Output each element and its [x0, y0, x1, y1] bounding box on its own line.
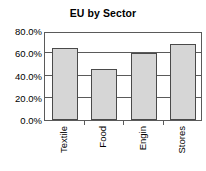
chart-container: EU by Sector 0.0%20.0%40.0%60.0%80.0% Te…	[0, 0, 206, 171]
bar-series	[45, 33, 201, 120]
x-axis-label-slot: Textile	[44, 126, 84, 171]
bar-stores	[170, 44, 196, 120]
x-axis-tick-label: Textile	[59, 126, 69, 153]
x-axis-tick-label: Stores	[177, 126, 187, 153]
bar-engin	[131, 53, 157, 120]
x-axis-tick-label: Food	[98, 126, 108, 148]
y-axis-tick-label: 60.0%	[0, 49, 42, 59]
x-axis-tick-label: Engin	[138, 126, 148, 150]
x-axis-tick	[84, 121, 85, 125]
x-axis-tick	[123, 121, 124, 125]
plot-area	[44, 32, 202, 121]
x-axis-label-slot: Food	[84, 126, 124, 171]
y-axis-tick-label: 20.0%	[0, 94, 42, 104]
y-axis-tick-label: 80.0%	[0, 27, 42, 37]
x-axis-label-slot: Engin	[123, 126, 163, 171]
chart-title: EU by Sector	[0, 7, 206, 19]
y-axis-tick-label: 40.0%	[0, 72, 42, 82]
x-axis-label-slot: Stores	[163, 126, 203, 171]
x-axis-tick	[163, 121, 164, 125]
bar-food	[91, 69, 117, 120]
y-axis-tick-label: 0.0%	[0, 116, 42, 126]
y-axis: 0.0%20.0%40.0%60.0%80.0%	[0, 32, 42, 121]
x-axis: TextileFoodEnginStores	[44, 126, 202, 171]
bar-textile	[52, 48, 78, 120]
